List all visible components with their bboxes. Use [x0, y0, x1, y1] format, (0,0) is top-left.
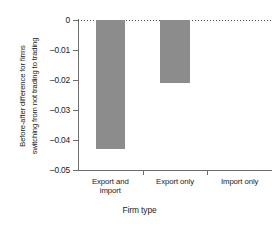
y-tick-mark	[73, 20, 78, 21]
x-category-separator	[207, 170, 208, 175]
y-tick-mark	[73, 50, 78, 51]
y-tick-label-host: 0	[0, 16, 70, 25]
y-tick-label: –0.03	[6, 106, 70, 114]
x-tick-label-line: Export and	[92, 177, 129, 186]
x-axis-title: Firm type	[0, 206, 279, 215]
y-tick-label-host: –0.02	[0, 76, 70, 85]
x-tick-label: Export andimport	[78, 177, 143, 195]
x-tick-label: Import only	[207, 177, 272, 186]
y-tick-label-host: –0.03	[0, 106, 70, 115]
y-tick-label: –0.05	[6, 166, 70, 174]
y-tick-mark	[73, 140, 78, 141]
y-tick-label: –0.01	[6, 46, 70, 54]
y-tick-label-host: –0.05	[0, 166, 70, 175]
x-tick-label-line: Export only	[156, 177, 194, 186]
bar[interactable]	[96, 20, 125, 149]
y-tick-label-host: –0.01	[0, 46, 70, 55]
x-axis-line	[78, 170, 272, 171]
y-tick-mark	[73, 170, 78, 171]
x-tick-label-line: import	[100, 186, 121, 195]
bar[interactable]	[160, 20, 189, 83]
x-tick-label-line: Import only	[221, 177, 258, 186]
y-tick-mark	[73, 80, 78, 81]
y-tick-label: –0.04	[6, 136, 70, 144]
x-tick-label: Export only	[143, 177, 208, 186]
y-axis-line	[78, 19, 79, 171]
y-tick-label: 0	[6, 16, 70, 24]
x-category-separator	[143, 170, 144, 175]
y-tick-mark	[73, 110, 78, 111]
bar-chart-figure: Before-after difference for firms switch…	[0, 0, 279, 231]
y-tick-label: –0.02	[6, 76, 70, 84]
y-tick-label-host: –0.04	[0, 136, 70, 145]
y-axis-title-line2: switching from not trading to trading	[16, 16, 52, 176]
